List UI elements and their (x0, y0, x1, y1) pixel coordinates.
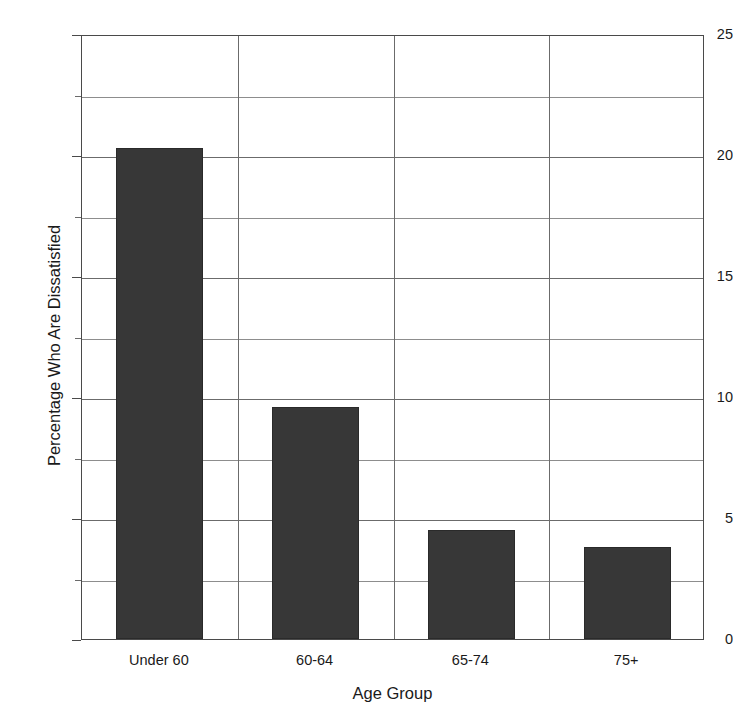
y-tick-10 (72, 398, 81, 399)
y-tick-20 (72, 156, 81, 157)
y-tick-0 (72, 640, 81, 641)
bar-under-60 (116, 148, 203, 639)
y-axis-title: Percentage Who Are Dissatisfied (45, 206, 64, 486)
y-tick-25 (72, 35, 81, 36)
x-tick-label-under-60: Under 60 (81, 652, 237, 668)
x-tick-label-65-74: 65-74 (393, 652, 549, 668)
y-tick-5 (72, 519, 81, 520)
plot-area (81, 35, 704, 640)
bar-series (82, 36, 703, 639)
bar-60-64 (272, 407, 359, 639)
bar-chart-figure: Percentage Who Are Dissatisfied 05101520… (0, 0, 733, 726)
bar-75 (584, 547, 671, 639)
bar-65-74 (428, 530, 515, 639)
x-tick-label-60-64: 60-64 (237, 652, 393, 668)
x-tick-label-75: 75+ (548, 652, 704, 668)
x-axis-title: Age Group (81, 684, 704, 703)
y-tick-15 (72, 277, 81, 278)
